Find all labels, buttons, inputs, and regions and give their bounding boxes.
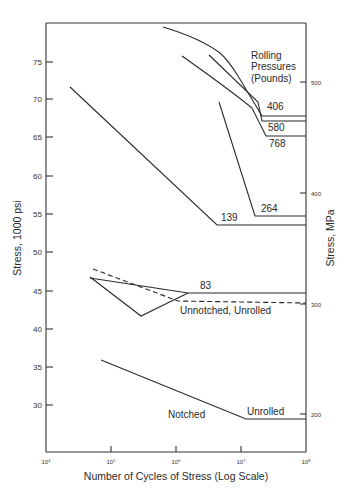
y-tick-65: 65 bbox=[33, 133, 42, 142]
y-tick-35: 35 bbox=[33, 363, 42, 372]
label-406: 406 bbox=[267, 101, 284, 112]
y-right-tick-400: 400 bbox=[311, 191, 322, 197]
y-axis-title: Stress, 1000 psi bbox=[11, 200, 23, 275]
y-tick-30: 30 bbox=[33, 401, 42, 410]
label-139: 139 bbox=[221, 212, 238, 223]
curve-83-upper bbox=[90, 277, 188, 316]
annotations: Rolling Pressures (Pounds) 406 580 768 2… bbox=[168, 50, 296, 420]
x-tick-1e6: 106 bbox=[172, 458, 182, 465]
label-83: 83 bbox=[200, 280, 212, 291]
y-tick-70: 70 bbox=[33, 95, 42, 104]
x-tick-1e4: 104 bbox=[42, 458, 52, 465]
y-axis-left: 75 70 65 60 55 50 45 40 35 30 bbox=[33, 58, 53, 410]
y-right-tick-500: 500 bbox=[311, 80, 322, 86]
label-unnotched-unrolled: Unnotched, Unrolled bbox=[180, 305, 271, 316]
curves bbox=[70, 27, 306, 419]
curve-83 bbox=[90, 278, 306, 293]
y-right-axis-title: Stress, MPa bbox=[324, 209, 336, 266]
label-768: 768 bbox=[269, 138, 286, 149]
y-tick-60: 60 bbox=[33, 172, 42, 181]
y-right-tick-200: 200 bbox=[311, 412, 322, 418]
label-unrolled: Unrolled bbox=[247, 406, 284, 417]
x-tick-1e8: 108 bbox=[302, 458, 312, 465]
y-tick-55: 55 bbox=[33, 210, 42, 219]
x-axis: 104 105 106 107 108 bbox=[42, 446, 312, 465]
x-tick-1e5: 105 bbox=[107, 458, 117, 465]
y-tick-40: 40 bbox=[33, 325, 42, 334]
legend-title-line2: Pressures bbox=[251, 61, 296, 72]
y-tick-50: 50 bbox=[33, 248, 42, 257]
legend-title-line3: (Pounds) bbox=[251, 73, 292, 84]
curve-264 bbox=[219, 102, 306, 216]
y-tick-45: 45 bbox=[33, 287, 42, 296]
y-tick-75: 75 bbox=[33, 58, 42, 67]
label-580: 580 bbox=[268, 122, 285, 133]
plot-frame bbox=[46, 23, 306, 452]
x-tick-1e7: 107 bbox=[237, 458, 247, 465]
y-right-tick-300: 300 bbox=[311, 302, 322, 308]
label-notched: Notched bbox=[168, 409, 205, 420]
fatigue-chart: 75 70 65 60 55 50 45 40 35 30 500 400 30… bbox=[0, 0, 353, 490]
legend-title-line1: Rolling bbox=[251, 50, 282, 61]
label-264: 264 bbox=[261, 203, 278, 214]
y-axis-right: 500 400 300 200 bbox=[300, 80, 322, 418]
x-axis-title: Number of Cycles of Stress (Log Scale) bbox=[84, 470, 268, 482]
